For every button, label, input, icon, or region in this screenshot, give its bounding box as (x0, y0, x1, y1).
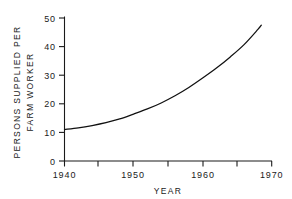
line-chart: 50 40 30 20 10 0 1940 1950 1960 1970 YEA… (0, 0, 292, 199)
x-tick-label-1940: 1940 (53, 170, 77, 180)
y-axis-title-line-1: PERSONS SUPPLIED PER (12, 26, 22, 159)
x-axis-title: YEAR (154, 186, 183, 196)
x-tick-label-1960: 1960 (191, 170, 215, 180)
y-axis-title-line-2: FARM WORKER (25, 52, 35, 131)
y-tick-label-50: 50 (44, 14, 56, 24)
y-tick-label-20: 20 (44, 99, 56, 109)
x-tick-label-1950: 1950 (121, 170, 145, 180)
y-tick-label-30: 30 (44, 71, 56, 81)
y-tick-label-40: 40 (44, 42, 56, 52)
y-tick-label-0: 0 (50, 157, 56, 167)
chart-figure: 50 40 30 20 10 0 1940 1950 1960 1970 YEA… (0, 0, 292, 199)
y-tick-label-10: 10 (44, 128, 56, 138)
x-tick-label-1970: 1970 (260, 170, 284, 180)
